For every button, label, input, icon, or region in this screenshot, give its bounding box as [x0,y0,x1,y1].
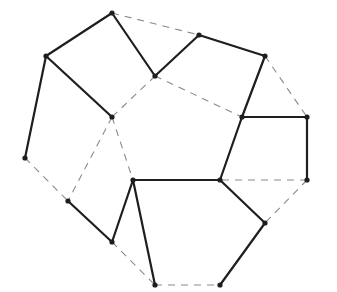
vertex-Q [65,198,70,203]
solid-edge-G-H [242,56,265,117]
dashed-edge-E-D [112,76,155,117]
solid-edge-O-P [112,180,133,242]
dashed-edge-P-N [112,242,155,285]
solid-edge-B-D [46,56,112,117]
graph-diagram [0,0,337,292]
dashed-edge-J-L [265,180,307,223]
vertex-D [109,114,114,119]
vertices [22,10,309,287]
solid-edge-E-F [155,35,199,76]
vertex-M [217,282,222,287]
vertex-O [130,177,135,182]
vertex-K [217,177,222,182]
dashed-edge-D-Q [68,117,112,201]
vertex-J [304,177,309,182]
vertex-L [262,220,267,225]
solid-edge-K-L [220,180,265,223]
solid-edge-L-M [220,223,265,285]
dashed-edge-D-O [112,117,133,180]
dashed-edge-E-H [155,76,242,117]
solid-edge-B-C [25,56,46,158]
vertex-G [262,53,267,58]
dashed-edge-C-Q [25,158,68,201]
vertex-F [196,32,201,37]
vertex-E [152,73,157,78]
vertex-H [239,114,244,119]
vertex-I [304,114,309,119]
solid-edge-A-E [112,13,155,76]
solid-edge-O-N [133,180,155,285]
vertex-B [43,53,48,58]
solid-edge-H-K [220,117,242,180]
solid-edge-P-Q [68,201,112,242]
solid-edge-A-B [46,13,112,56]
vertex-P [109,239,114,244]
vertex-C [22,155,27,160]
solid-edge-F-G [199,35,265,56]
vertex-N [152,282,157,287]
dashed-edge-G-I [265,56,307,117]
vertex-A [109,10,114,15]
